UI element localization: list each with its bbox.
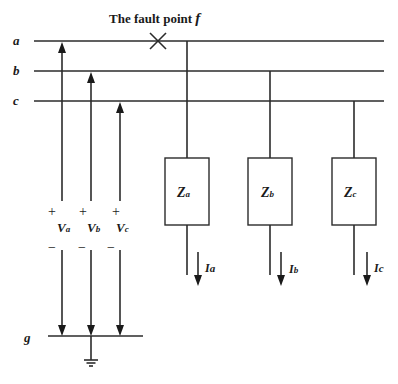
source-c-plus: +	[112, 204, 120, 219]
current-a-arrow	[194, 252, 202, 286]
source-a-minus: −	[48, 240, 56, 255]
source-a-plus: +	[48, 204, 56, 219]
ground-icon	[84, 336, 98, 366]
current-c-label: Ic	[373, 261, 384, 275]
source-c-ground-arrow	[116, 325, 124, 336]
source-b-plus: +	[79, 204, 87, 219]
source-c	[116, 102, 124, 336]
source-c-arrow	[116, 102, 124, 113]
source-c-label: Vc	[116, 220, 129, 235]
source-a-label: Va	[57, 220, 71, 235]
current-c-arrow	[363, 252, 371, 286]
source-a	[58, 42, 66, 336]
load-a	[165, 41, 209, 275]
source-a-arrow	[58, 42, 66, 53]
current-b-arrow	[277, 252, 285, 286]
fault-point-title: The fault point f	[109, 10, 202, 26]
bus-b-label: b	[13, 63, 20, 78]
source-b-ground-arrow	[87, 325, 95, 336]
source-a-ground-arrow	[58, 325, 66, 336]
current-a-label: Ia	[204, 261, 216, 275]
bus-c-label: c	[13, 93, 19, 108]
three-phase-fault-diagram: The fault point f a b c + + + Va Vb Vc −…	[0, 0, 398, 384]
source-b	[87, 72, 95, 336]
load-c	[332, 101, 376, 275]
source-b-label: Vb	[87, 220, 101, 235]
source-b-arrow	[87, 72, 95, 83]
bus-a-label: a	[13, 33, 20, 48]
source-b-minus: −	[78, 240, 86, 255]
current-b-label: Ib	[288, 262, 299, 276]
ground-bus-label: g	[23, 330, 31, 345]
source-c-minus: −	[107, 240, 115, 255]
